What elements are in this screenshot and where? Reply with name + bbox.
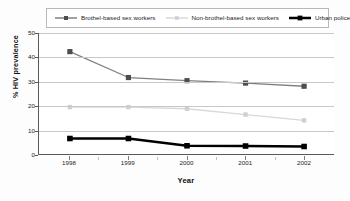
legend-label-brothel-based: Brothel-based sex workers [81, 15, 156, 21]
x-minor-tick-mark [275, 157, 276, 160]
x-tick-label: 2000 [170, 160, 204, 166]
data-point-marker [302, 84, 307, 89]
legend-swatch-brothel-based [55, 14, 77, 23]
series-1 [67, 49, 306, 89]
x-tick-mark [187, 156, 188, 160]
gridline [39, 106, 334, 107]
legend-item-urban-police[interactable]: Urban police [289, 14, 350, 23]
x-axis-title: Year [38, 176, 334, 185]
data-point-marker [243, 143, 249, 149]
legend-item-brothel-based[interactable]: Brothel-based sex workers [55, 14, 156, 23]
x-tick-mark [69, 156, 70, 160]
x-axis-tick-labels: 19981999200020012002 [38, 160, 334, 172]
data-point-marker [126, 75, 131, 80]
y-tick-label: 20 [19, 103, 35, 109]
data-point-marker [184, 143, 190, 149]
legend-swatch-urban-police [289, 14, 311, 23]
y-tick-label: 10 [19, 127, 35, 133]
data-point-marker [67, 49, 72, 54]
data-point-marker [302, 118, 306, 122]
data-point-marker [243, 112, 247, 116]
series-2 [68, 105, 307, 123]
x-tick-mark [245, 156, 246, 160]
data-point-marker [67, 136, 73, 142]
series-3 [67, 136, 307, 150]
y-tick-label: 50 [19, 30, 35, 36]
legend-swatch-non-brothel-based [166, 14, 188, 23]
legend-item-non-brothel-based[interactable]: Non-brothel-based sex workers [166, 14, 279, 23]
x-tick-label: 2001 [228, 160, 262, 166]
x-minor-tick-mark [216, 157, 217, 160]
gridline [39, 82, 334, 83]
legend-label-urban-police: Urban police [315, 15, 350, 21]
gridline [39, 57, 334, 58]
data-point-marker [126, 136, 132, 142]
x-tick-label: 2002 [287, 160, 321, 166]
legend-label-non-brothel-based: Non-brothel-based sex workers [192, 15, 279, 21]
y-tick-label: 0 [19, 152, 35, 158]
gridline [39, 131, 334, 132]
y-tick-label: 30 [19, 79, 35, 85]
x-tick-label: 1998 [52, 160, 86, 166]
x-tick-mark [304, 156, 305, 160]
x-minor-tick-mark [98, 157, 99, 160]
series-layer [39, 33, 334, 154]
plot-area [38, 33, 334, 155]
data-point-marker [185, 107, 189, 111]
y-tick-label: 40 [19, 54, 35, 60]
x-tick-mark [128, 156, 129, 160]
data-point-marker [301, 144, 307, 150]
x-minor-tick-mark [157, 157, 158, 160]
gridline [39, 33, 334, 34]
chart-legend: Brothel-based sex workers Non-brothel-ba… [46, 8, 329, 28]
x-tick-label: 1999 [111, 160, 145, 166]
y-tick-mark [35, 155, 38, 156]
y-axis-tick-labels: 01020304050 [16, 33, 35, 155]
